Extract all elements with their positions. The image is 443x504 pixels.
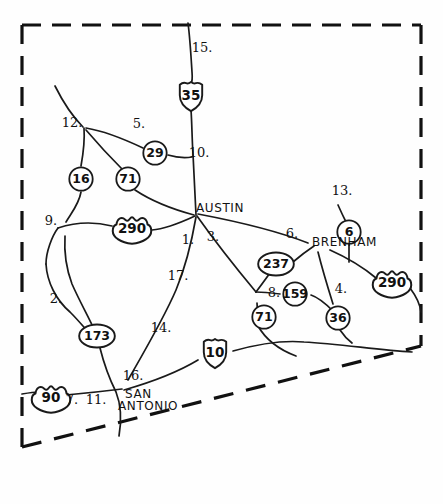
route-shield-159[interactable]: 159 bbox=[282, 282, 308, 305]
shield-label: 237 bbox=[263, 256, 289, 271]
city-label-austin: AUSTIN bbox=[196, 201, 244, 215]
road-29 bbox=[86, 128, 192, 158]
route-shield-71[interactable]: 71 bbox=[116, 167, 139, 190]
city-label-antonio: ANTONIO bbox=[118, 399, 178, 413]
segment-number-label: 7. bbox=[66, 392, 78, 407]
shield-label: 36 bbox=[329, 310, 347, 325]
route-shield-16[interactable]: 16 bbox=[69, 167, 92, 190]
route-shield-290[interactable]: 290 bbox=[113, 217, 152, 244]
shield-label: 16 bbox=[72, 171, 90, 186]
shield-label: 290 bbox=[378, 274, 406, 290]
road-36-south bbox=[340, 330, 352, 343]
shield-label: 35 bbox=[182, 87, 201, 103]
shield-label: 290 bbox=[118, 220, 146, 236]
segment-number-label: 2. bbox=[50, 291, 62, 306]
map-canvas: 35102902909016712961597136237173 1.2.3.4… bbox=[0, 0, 443, 504]
segment-number-label: 11. bbox=[86, 392, 107, 407]
shield-label: 173 bbox=[84, 328, 110, 343]
segment-number-label: 15. bbox=[192, 40, 213, 55]
segment-number-label: 13. bbox=[332, 183, 353, 198]
route-shield-90[interactable]: 90 bbox=[32, 386, 71, 413]
segment-number-label: 16. bbox=[123, 368, 144, 383]
route-shield-173[interactable]: 173 bbox=[79, 325, 115, 348]
shield-label: 10 bbox=[206, 344, 225, 360]
city-label-brenham: BRENHAM bbox=[312, 235, 377, 249]
shield-label: 90 bbox=[42, 389, 61, 405]
shield-label: 71 bbox=[119, 171, 136, 186]
shield-label: 159 bbox=[282, 286, 308, 301]
road-i10 bbox=[124, 341, 412, 390]
shield-label: 29 bbox=[146, 145, 163, 160]
segment-number-label: 4. bbox=[335, 281, 347, 296]
route-shield-10[interactable]: 10 bbox=[204, 339, 226, 368]
road-71-west bbox=[86, 130, 194, 215]
route-shield-71[interactable]: 71 bbox=[252, 305, 275, 328]
segment-number-label: 17. bbox=[168, 268, 189, 283]
route-shield-35[interactable]: 35 bbox=[180, 82, 202, 111]
highway-network-map: 35102902909016712961597136237173 1.2.3.4… bbox=[0, 0, 443, 504]
segment-number-label: 1. bbox=[182, 232, 194, 247]
route-shield-36[interactable]: 36 bbox=[326, 306, 349, 329]
route-shield-29[interactable]: 29 bbox=[143, 141, 166, 164]
route-shield-290[interactable]: 290 bbox=[373, 271, 412, 298]
segment-number-label: 10. bbox=[189, 145, 210, 160]
segment-number-label: 8. bbox=[268, 285, 280, 300]
segment-number-label: 3. bbox=[207, 229, 219, 244]
segment-number-label: 14. bbox=[151, 320, 172, 335]
segment-number-label: 6. bbox=[286, 226, 298, 241]
route-shield-237[interactable]: 237 bbox=[258, 253, 294, 276]
shield-label: 71 bbox=[255, 309, 272, 324]
road-4 bbox=[318, 252, 333, 304]
road-9-spur bbox=[46, 228, 58, 264]
segment-number-label: 9. bbox=[45, 213, 57, 228]
segment-number-label: 12. bbox=[62, 115, 83, 130]
segment-number-label: 5. bbox=[133, 116, 145, 131]
road-16 bbox=[65, 128, 93, 327]
